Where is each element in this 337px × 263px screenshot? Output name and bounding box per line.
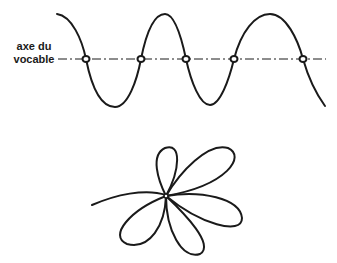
petal-top xyxy=(157,147,178,196)
petal-bottom-right xyxy=(166,196,204,255)
node-1 xyxy=(83,56,90,62)
diagram-canvas xyxy=(0,0,337,263)
node-3 xyxy=(183,56,190,62)
flower-tail xyxy=(92,192,166,205)
loop-flower xyxy=(92,147,242,255)
flower-center-node xyxy=(164,194,168,198)
node-2 xyxy=(138,56,145,62)
wave-curve xyxy=(57,14,325,107)
node-5 xyxy=(300,56,307,62)
petal-right xyxy=(166,194,242,226)
node-4 xyxy=(231,56,238,62)
petal-bottom-left xyxy=(120,196,166,245)
